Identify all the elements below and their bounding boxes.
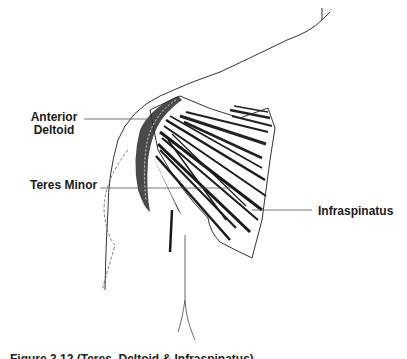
figure-caption-text: Figure 3.12 (Teres, Deltoid & Infraspina… — [10, 352, 407, 359]
label-infraspinatus: Infraspinatus — [318, 205, 393, 218]
figure-caption: Figure 3.12 (Teres, Deltoid & Infraspina… — [10, 352, 407, 359]
label-teres-minor: Teres Minor — [30, 179, 97, 192]
teres-minor-muscle — [150, 150, 182, 216]
arm-lower-outline — [185, 235, 195, 340]
shoulder-outline — [105, 40, 287, 290]
neck-outline — [287, 8, 330, 40]
label-anterior-deltoid-line2: Deltoid — [25, 124, 83, 137]
deltoid-muscle — [135, 96, 182, 212]
label-anterior-deltoid: Anterior Deltoid — [25, 111, 83, 137]
